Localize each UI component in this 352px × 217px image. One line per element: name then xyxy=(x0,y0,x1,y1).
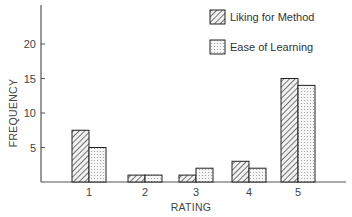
bar-ease-1 xyxy=(89,148,106,183)
bar-liking-1 xyxy=(72,130,89,182)
y-tick-label: 20 xyxy=(24,38,36,50)
x-tick-label: 4 xyxy=(246,186,252,198)
bar-liking-3 xyxy=(179,175,196,182)
legend-swatch xyxy=(210,40,225,54)
bar-ease-5 xyxy=(298,85,315,182)
bars xyxy=(72,79,315,183)
bar-liking-2 xyxy=(128,175,145,182)
bar-liking-5 xyxy=(281,79,298,183)
y-tick-label: 15 xyxy=(24,73,36,85)
bar-ease-2 xyxy=(145,175,162,182)
bar-ease-3 xyxy=(196,168,213,182)
x-tick-label: 2 xyxy=(142,186,148,198)
bar-chart: 510152012345 Liking for MethodEase of Le… xyxy=(0,0,352,217)
x-tick-label: 5 xyxy=(295,186,301,198)
legend-swatch xyxy=(210,10,225,24)
x-tick-label: 3 xyxy=(193,186,199,198)
legend: Liking for MethodEase of Learning xyxy=(210,10,314,54)
y-tick-label: 5 xyxy=(30,142,36,154)
bar-ease-4 xyxy=(249,168,266,182)
legend-label: Liking for Method xyxy=(230,11,314,23)
y-axis-title: FREQUENCY xyxy=(7,79,19,148)
x-axis-title: RATING xyxy=(171,201,212,213)
y-tick-label: 10 xyxy=(24,107,36,119)
legend-label: Ease of Learning xyxy=(230,41,313,53)
x-tick-label: 1 xyxy=(86,186,92,198)
bar-liking-4 xyxy=(232,161,249,182)
